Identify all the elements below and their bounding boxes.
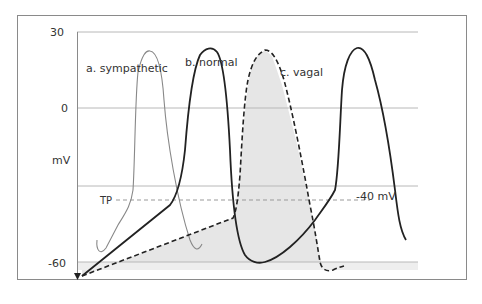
threshold-label: TP [99, 195, 112, 206]
label-vagal: c. vagal [280, 66, 323, 79]
vagal-shaded-region [82, 50, 345, 276]
tick-30: 30 [50, 26, 64, 39]
baseline-shaded-strip [78, 262, 418, 270]
label-normal: b. normal [185, 56, 238, 69]
axis-arrow-icon [74, 273, 81, 280]
threshold-value-label: -40 mV [356, 190, 396, 203]
y-axis-unit-label: mV [52, 154, 71, 167]
tick-minus60: -60 [48, 257, 66, 270]
tick-0: 0 [61, 102, 68, 115]
label-sympathetic: a. sympathetic [86, 62, 168, 75]
action-potential-diagram: 30 0 -60 mV TP -40 mV a. sympathetic b. … [0, 0, 482, 304]
